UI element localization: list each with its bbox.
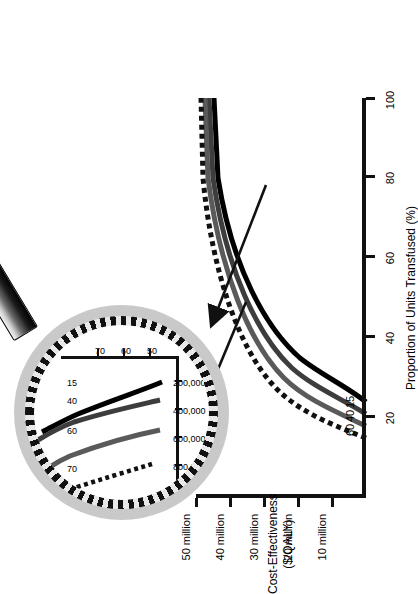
magnifier: 800,000 600,000 400,000 200,000 50 60 70… — [14, 305, 229, 520]
inset-x-tick-label-200k: 200,000 — [173, 378, 206, 388]
zoom-factor-label: 10x — [57, 486, 75, 498]
inset-x-tick-label-800k: 800,000 — [173, 462, 206, 472]
inset-curve-label-40: 40 — [67, 396, 77, 406]
inset-y-tick-label-60: 60 — [121, 346, 131, 356]
inset-curve-15 — [42, 382, 162, 432]
inset-y-tick-label-70: 70 — [95, 346, 105, 356]
callout-arrow-right — [212, 185, 266, 324]
inset-curve-label-70: 70 — [67, 464, 77, 474]
inset-x-tick-label-400k: 400,000 — [173, 406, 206, 416]
inset-curve-label-15: 15 — [67, 378, 77, 388]
inset-curve-label-60: 60 — [67, 426, 77, 436]
inset-curve-70 — [36, 464, 152, 500]
inset-y-axis-line — [61, 356, 179, 359]
x-axis-title: Proportion of Units Transfused (%) — [404, 206, 418, 390]
inset-curve-60 — [34, 430, 160, 480]
magnifier-glass: 800,000 600,000 400,000 200,000 50 60 70… — [34, 325, 209, 500]
inset-y-tick-label-50: 50 — [147, 346, 157, 356]
inset-x-tick-label-600k: 600,000 — [173, 434, 206, 444]
